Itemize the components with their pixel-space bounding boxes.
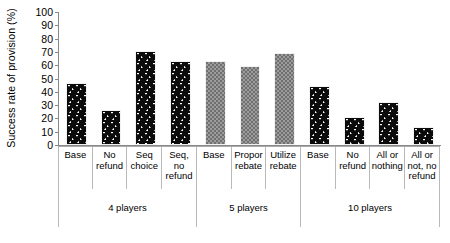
bar xyxy=(344,117,365,145)
y-tick-label: 40 xyxy=(13,86,59,98)
bar-cell xyxy=(59,12,94,145)
condition-label: Base xyxy=(197,147,232,189)
condition-label: Utilize rebate xyxy=(266,147,301,189)
bar-cell xyxy=(302,12,337,145)
bar-cell xyxy=(198,12,233,145)
y-tick-label: 80 xyxy=(13,33,59,45)
bar-cell xyxy=(128,12,163,145)
bar xyxy=(240,66,261,145)
group-label: 5 players xyxy=(197,189,301,227)
y-tick-label: 20 xyxy=(13,112,59,124)
condition-label: No refund xyxy=(336,147,371,189)
bar xyxy=(66,83,87,146)
condition-label: All or not, no refund xyxy=(405,147,440,189)
plot-area: 0102030405060708090100 xyxy=(58,12,441,146)
bar xyxy=(378,102,399,145)
bar xyxy=(413,127,434,145)
y-tick-label: 10 xyxy=(13,126,59,138)
bar-cell xyxy=(267,12,302,145)
group-label: 10 players xyxy=(301,189,440,227)
group-label: 4 players xyxy=(58,189,197,227)
bar xyxy=(101,110,122,145)
bar-series xyxy=(59,12,441,145)
y-tick-label: 100 xyxy=(13,6,59,18)
bar-cell xyxy=(94,12,129,145)
y-tick-label: 90 xyxy=(13,19,59,31)
bar-cell xyxy=(337,12,372,145)
bar xyxy=(309,86,330,145)
bar xyxy=(135,51,156,145)
bar xyxy=(170,61,191,145)
bar-chart-figure: Success rate of provision (%) 0102030405… xyxy=(0,0,450,243)
bar-cell xyxy=(163,12,198,145)
condition-label: Seq, no refund xyxy=(162,147,197,189)
y-tick-label: 0 xyxy=(13,139,59,151)
bar-cell xyxy=(233,12,268,145)
y-tick-label: 30 xyxy=(13,99,59,111)
condition-label: No refund xyxy=(93,147,128,189)
condition-label: Base xyxy=(301,147,336,189)
condition-label: Propor rebate xyxy=(232,147,267,189)
bar-cell xyxy=(406,12,441,145)
condition-label: Base xyxy=(58,147,93,189)
y-tick-label: 50 xyxy=(13,73,59,85)
bar xyxy=(205,61,226,145)
x-axis-label-table: BaseNo refundSeq choiceSeq, no refundBas… xyxy=(58,146,440,227)
condition-label: Seq choice xyxy=(127,147,162,189)
bar xyxy=(274,53,295,145)
group-label-row: 4 players5 players10 players xyxy=(58,189,440,227)
y-tick-label: 70 xyxy=(13,46,59,58)
y-tick-label: 60 xyxy=(13,59,59,71)
condition-label: All or nothing xyxy=(370,147,405,189)
bar-cell xyxy=(372,12,407,145)
condition-label-row: BaseNo refundSeq choiceSeq, no refundBas… xyxy=(58,147,440,189)
